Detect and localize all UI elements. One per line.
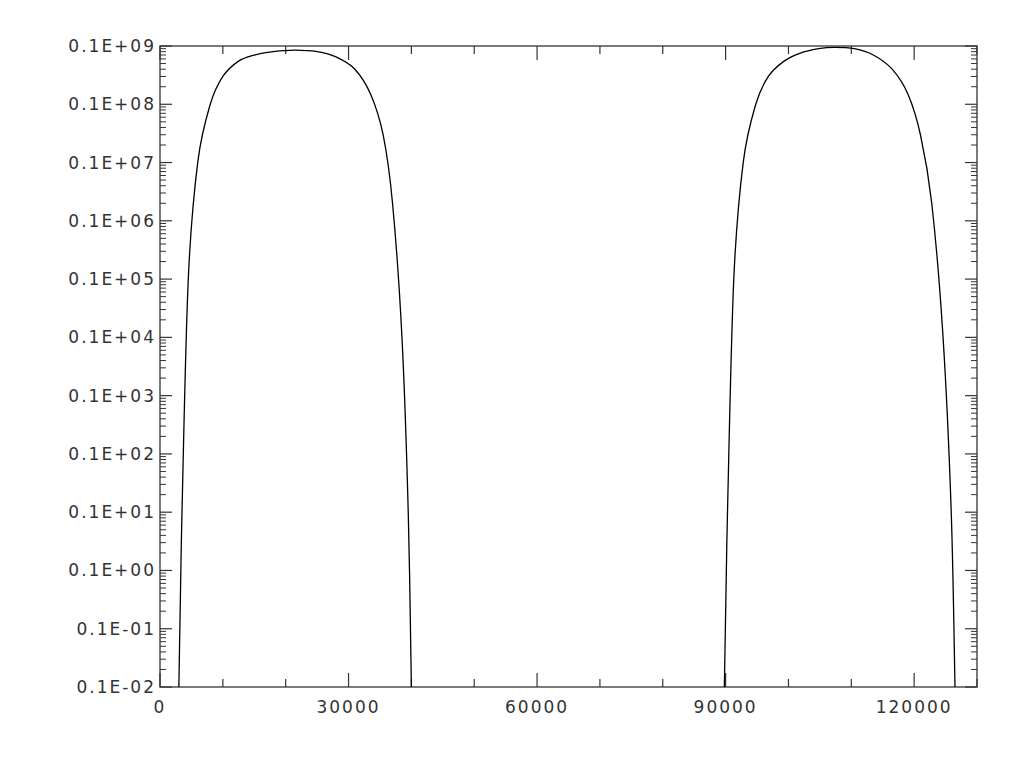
y-axis-tick-labels: 0.1E-020.1E-010.1E+000.1E+010.1E+020.1E+… — [68, 36, 156, 697]
data-series — [179, 47, 955, 687]
series-line — [179, 50, 412, 687]
y-tick-label: 0.1E-02 — [76, 677, 156, 697]
y-tick-label: 0.1E+06 — [68, 211, 156, 231]
series-line — [724, 47, 955, 687]
y-tick-label: 0.1E+07 — [68, 153, 156, 173]
x-tick-label: 30000 — [316, 697, 380, 717]
y-tick-label: 0.1E+02 — [68, 444, 156, 464]
y-tick-label: 0.1E+03 — [68, 386, 156, 406]
y-tick-label: 0.1E+09 — [68, 36, 156, 56]
y-tick-label: 0.1E-01 — [76, 619, 156, 639]
plot-border — [160, 46, 977, 687]
x-axis-tick-labels: 0300006000090000120000 — [154, 697, 953, 717]
plot-frame — [160, 46, 977, 687]
y-axis-ticks — [160, 46, 977, 687]
x-tick-label: 120000 — [876, 697, 953, 717]
y-tick-label: 0.1E+01 — [68, 502, 156, 522]
y-tick-label: 0.1E+04 — [68, 327, 156, 347]
log-scale-line-chart: 0.1E-020.1E-010.1E+000.1E+010.1E+020.1E+… — [0, 0, 1024, 758]
x-axis-ticks — [160, 46, 977, 687]
y-tick-label: 0.1E+08 — [68, 94, 156, 114]
x-tick-label: 60000 — [505, 697, 569, 717]
x-tick-label: 0 — [154, 697, 167, 717]
y-tick-label: 0.1E+05 — [68, 269, 156, 289]
x-tick-label: 90000 — [694, 697, 758, 717]
y-tick-label: 0.1E+00 — [68, 560, 156, 580]
